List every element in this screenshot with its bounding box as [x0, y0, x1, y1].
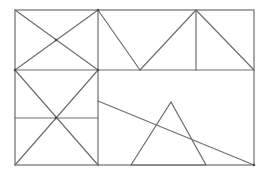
line-segments: [15, 10, 254, 165]
vertex-dots: [14, 9, 255, 166]
bottom-triangle: [131, 102, 206, 165]
vertex-dot: [55, 117, 57, 119]
vertex-dot: [97, 69, 99, 71]
geometric-figure: [0, 0, 267, 175]
top-right-diagonal: [196, 10, 254, 70]
top-v-left-arm: [98, 10, 140, 70]
top-v-right-arm: [140, 10, 196, 70]
vertex-dot: [14, 69, 16, 71]
vertex-dot: [97, 9, 99, 11]
vertex-dot: [253, 164, 255, 166]
diagram-canvas: [0, 0, 267, 175]
vertex-dot: [55, 39, 57, 41]
